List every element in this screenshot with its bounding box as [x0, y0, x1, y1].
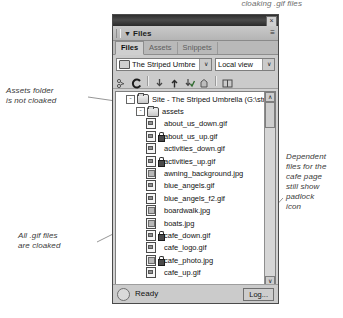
annotation-assets-line1: Assets folder [6, 86, 86, 96]
padlock-icon [158, 132, 163, 140]
tab-assets[interactable]: Assets [144, 42, 178, 54]
image-file-icon [146, 218, 156, 229]
get-files-icon[interactable] [154, 75, 165, 86]
tree-row-assets-folder[interactable]: - assets [116, 105, 265, 117]
folder-icon [137, 94, 149, 104]
gif-file-icon [146, 193, 156, 204]
file-name: cafe_down.gif [164, 231, 210, 240]
tree-row-file[interactable]: activities_up.gif [116, 155, 265, 167]
connect-icon[interactable] [116, 75, 127, 86]
tree-row-file[interactable]: about_us_down.gif [116, 118, 265, 130]
tree-row-file[interactable]: activities_down.gif [116, 143, 265, 155]
panel-title: Files [133, 29, 152, 38]
file-name: activities_up.gif [164, 157, 215, 166]
file-name: about_us_up.gif [164, 132, 217, 141]
tree-row-file[interactable]: cafe_down.gif [116, 229, 265, 241]
annotation-dependent-files: Dependent files for the cafe page still … [286, 152, 341, 212]
view-dropdown[interactable]: Local view ∨ [215, 58, 275, 71]
file-name: cafe_up.gif [164, 268, 201, 277]
tree-row-file[interactable]: cafe_photo.jpg [116, 254, 265, 266]
annotation-dep-line2: files for the [286, 162, 341, 172]
padlock-icon [158, 256, 163, 264]
file-rows: about_us_down.gifabout_us_up.gifactiviti… [116, 118, 265, 279]
gif-file-icon [146, 180, 156, 191]
gif-file-icon [146, 267, 156, 278]
tree-row-label: Site - The Striped Umbrella (G:\strip [152, 95, 265, 104]
tree-row-file[interactable]: awning_background.jpg [116, 167, 265, 179]
gif-file-icon [146, 242, 156, 253]
gif-file-icon [146, 131, 156, 142]
gif-file-icon [146, 230, 156, 241]
annotation-top-caption: cloaking .gif files [172, 0, 302, 9]
gif-file-icon [146, 143, 156, 154]
file-tree[interactable]: - Site - The Striped Umbrella (G:\strip … [116, 92, 265, 286]
view-dropdown-value: Local view [218, 60, 262, 69]
chevron-down-icon[interactable]: ∨ [262, 59, 274, 70]
files-panel: × ▼ Files ≡ Files Assets Snippets The St… [112, 14, 279, 304]
file-name: cafe_photo.jpg [164, 256, 213, 265]
files-toolbar [113, 73, 278, 89]
toolbar-separator [215, 76, 217, 86]
annotation-dep-line3: cafe page [286, 172, 341, 182]
folder-icon [119, 60, 130, 69]
folder-icon [147, 107, 159, 117]
tree-row-file[interactable]: boardwalk.jpg [116, 205, 265, 217]
gif-file-icon [146, 118, 156, 129]
file-name: boardwalk.jpg [164, 206, 210, 215]
status-text: Ready [135, 289, 243, 299]
site-dropdown[interactable]: The Striped Umbre ∨ [116, 58, 212, 71]
image-file-icon [146, 168, 156, 179]
expand-icon[interactable] [222, 75, 233, 86]
tree-row-file[interactable]: blue_angels.gif [116, 180, 265, 192]
tree-row-file[interactable]: cafe_logo.gif [116, 242, 265, 254]
check-in-icon[interactable] [199, 75, 210, 86]
tree-row-file[interactable]: cafe_up.gif [116, 266, 265, 278]
tree-row-file[interactable]: about_us_up.gif [116, 130, 265, 142]
annotation-gif-line2: are cloaked [18, 241, 94, 251]
tab-files[interactable]: Files [115, 41, 144, 55]
panel-grip[interactable] [116, 29, 121, 38]
site-dropdown-value: The Striped Umbre [132, 60, 199, 69]
site-toolbar: The Striped Umbre ∨ Local view ∨ [113, 55, 278, 73]
tree-row-file[interactable]: blue_angels_f2.gif [116, 192, 265, 204]
gif-file-icon [146, 156, 156, 167]
tree-row-label: assets [162, 107, 184, 116]
status-bar: Ready Log... [113, 284, 278, 303]
tab-snippets[interactable]: Snippets [178, 42, 218, 54]
annotation-dep-line4: still show [286, 182, 341, 192]
chevron-down-icon[interactable]: ∨ [199, 59, 211, 70]
put-files-icon[interactable] [169, 75, 180, 86]
annotation-dep-line5: padlock [286, 192, 341, 202]
window-title-bar: × [113, 15, 278, 26]
file-name: cafe_logo.gif [164, 243, 207, 252]
annotation-dep-line1: Dependent [286, 152, 341, 162]
annotation-gif-line1: All .gif files [18, 231, 94, 241]
scroll-up-button[interactable]: ∧ [265, 92, 275, 102]
scroll-thumb[interactable] [265, 102, 275, 128]
file-name: activities_down.gif [164, 144, 225, 153]
annotation-assets-not-cloaked: Assets folder is not cloaked [6, 86, 86, 106]
panel-tabs: Files Assets Snippets [113, 41, 278, 55]
expander-icon[interactable]: - [126, 95, 135, 104]
file-name: blue_angels_f2.gif [164, 194, 225, 203]
refresh-icon[interactable] [131, 75, 142, 86]
image-file-icon [146, 255, 156, 266]
chevron-down-icon[interactable]: ▼ [124, 29, 131, 38]
check-out-icon[interactable] [184, 75, 195, 86]
file-list-container: - Site - The Striped Umbrella (G:\strip … [115, 91, 276, 287]
vertical-scrollbar[interactable]: ∧ ∨ [264, 92, 275, 286]
image-file-icon [146, 205, 156, 216]
tree-row-site-root[interactable]: - Site - The Striped Umbrella (G:\strip [116, 93, 265, 105]
annotation-dep-line6: icon [286, 202, 341, 212]
tree-row-file[interactable]: boats.jpg [116, 217, 265, 229]
padlock-icon [158, 231, 163, 239]
file-name: about_us_down.gif [164, 119, 227, 128]
status-indicator-icon [117, 288, 130, 301]
expander-icon[interactable]: - [136, 107, 145, 116]
annotation-gif-cloaked: All .gif files are cloaked [18, 231, 94, 251]
options-menu-icon[interactable]: ≡ [270, 29, 275, 37]
padlock-icon [158, 157, 163, 165]
annotation-assets-line2: is not cloaked [6, 96, 86, 106]
log-button[interactable]: Log... [243, 288, 274, 301]
file-name: blue_angels.gif [164, 181, 214, 190]
